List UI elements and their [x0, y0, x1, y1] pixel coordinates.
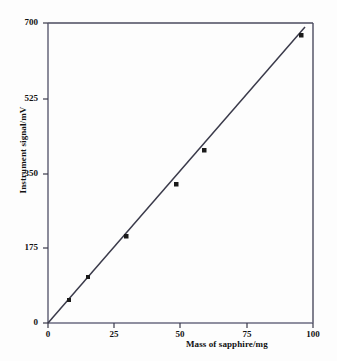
data-point [86, 275, 90, 279]
chart-figure: 700 525 350 175 0 0 25 50 75 100 Instrum… [0, 0, 337, 361]
x-tick-label-100: 100 [298, 329, 328, 339]
x-tick-label-0: 0 [33, 329, 63, 339]
data-point [67, 298, 71, 302]
x-tick-label-25: 25 [99, 329, 129, 339]
y-axis-ticks [43, 23, 48, 323]
x-axis-title: Mass of sapphire/mg [186, 339, 268, 349]
data-point [202, 148, 207, 153]
data-points [67, 33, 304, 302]
x-tick-label-75: 75 [232, 329, 262, 339]
x-axis-ticks [48, 323, 313, 328]
x-tick-label-50: 50 [165, 329, 195, 339]
data-point [174, 182, 179, 187]
scatter-plot-canvas [0, 0, 337, 361]
y-tick-label-0: 0 [4, 317, 38, 327]
y-tick-label-700: 700 [4, 17, 38, 27]
data-point [124, 234, 129, 239]
y-axis-title: Instrument signal/mV [18, 80, 28, 220]
y-tick-label-175: 175 [4, 242, 38, 252]
data-point [299, 33, 304, 38]
